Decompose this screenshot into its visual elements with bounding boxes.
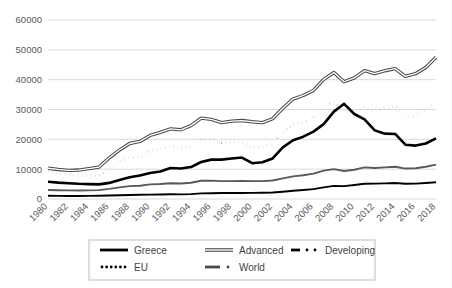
chart-legend: GreeceAdvancedDevelopingEUWorld bbox=[89, 240, 375, 280]
legend-label: Developing bbox=[325, 245, 375, 256]
line-chart: 0100002000030000400005000060000 19801982… bbox=[0, 0, 452, 288]
y-axis-tick-label: 20000 bbox=[16, 134, 42, 145]
y-axis-tick-label: 10000 bbox=[16, 164, 42, 175]
y-axis-tick-label: 60000 bbox=[16, 14, 42, 25]
legend-label: EU bbox=[134, 262, 148, 273]
legend-label: World bbox=[239, 262, 265, 273]
chart-canvas: 0100002000030000400005000060000 19801982… bbox=[0, 0, 452, 288]
legend-label: Greece bbox=[134, 245, 167, 256]
y-axis-tick-label: 30000 bbox=[16, 104, 42, 115]
y-axis-tick-label: 50000 bbox=[16, 44, 42, 55]
y-axis-tick-label: 40000 bbox=[16, 74, 42, 85]
legend-label: Advanced bbox=[239, 245, 283, 256]
